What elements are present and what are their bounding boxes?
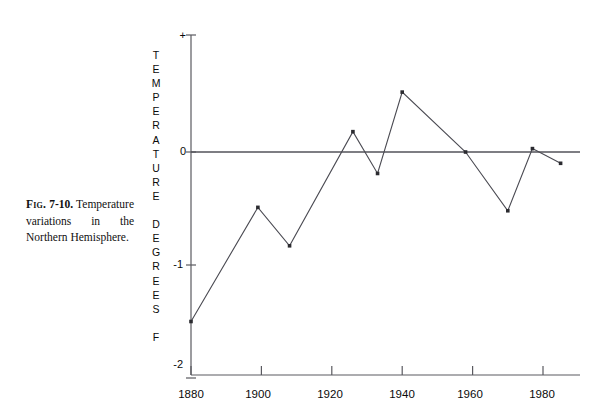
temperature-series-line xyxy=(191,92,561,321)
x-axis-ticks xyxy=(191,366,543,375)
figure-page: Fig. 7-10. Temperature variations in the… xyxy=(0,0,606,420)
data-point-1899 xyxy=(256,206,260,210)
data-point-1908 xyxy=(288,244,292,248)
data-point-1880 xyxy=(189,320,193,324)
data-point-1977 xyxy=(531,147,535,151)
data-point-1970 xyxy=(506,209,510,213)
data-point-1958 xyxy=(464,150,468,154)
axes-group xyxy=(191,35,580,375)
data-point-1926 xyxy=(351,130,355,134)
line-chart-plot xyxy=(0,0,606,420)
data-point-1985 xyxy=(559,162,563,166)
temperature-series-markers xyxy=(189,90,562,323)
data-point-1940 xyxy=(400,90,404,94)
data-point-1933 xyxy=(376,172,380,176)
